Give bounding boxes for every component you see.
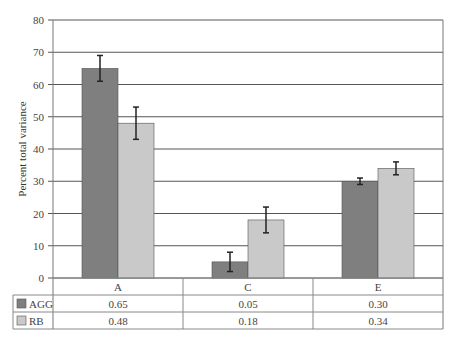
table-cell: 0.34 xyxy=(368,315,388,327)
x-category-label: A xyxy=(114,281,122,293)
table-cell: 0.18 xyxy=(238,315,258,327)
legend-swatch-rb xyxy=(17,316,26,325)
y-tick-label: 50 xyxy=(33,111,45,123)
y-tick-label: 40 xyxy=(33,143,45,155)
y-tick-label: 80 xyxy=(33,14,45,26)
y-tick-label: 0 xyxy=(39,272,45,284)
y-tick-label: 60 xyxy=(33,79,45,91)
bar-chart: 01020304050607080 Percent total variance… xyxy=(0,0,456,343)
table-cell: 0.30 xyxy=(368,298,388,310)
legend-label-rb: RB xyxy=(29,315,44,327)
y-tick-label: 30 xyxy=(33,175,45,187)
table-cell: 0.48 xyxy=(108,315,128,327)
y-tick-label: 20 xyxy=(33,208,45,220)
x-category-label: E xyxy=(375,281,382,293)
data-table: ACEAGG0.650.050.30RB0.480.180.34 xyxy=(13,278,443,329)
table-cell: 0.05 xyxy=(238,298,258,310)
bar-rb-e xyxy=(378,168,414,278)
legend-label-agg: AGG xyxy=(29,298,53,310)
y-tick-label: 10 xyxy=(33,240,45,252)
y-tick-label: 70 xyxy=(33,46,45,58)
x-category-label: C xyxy=(244,281,251,293)
bar-agg-e xyxy=(342,181,378,278)
bar-agg-a xyxy=(82,68,118,278)
legend-swatch-agg xyxy=(17,299,26,308)
bars xyxy=(82,55,414,278)
y-axis-label: Percent total variance xyxy=(16,101,28,196)
table-cell: 0.65 xyxy=(108,298,128,310)
bar-rb-a xyxy=(118,123,154,278)
